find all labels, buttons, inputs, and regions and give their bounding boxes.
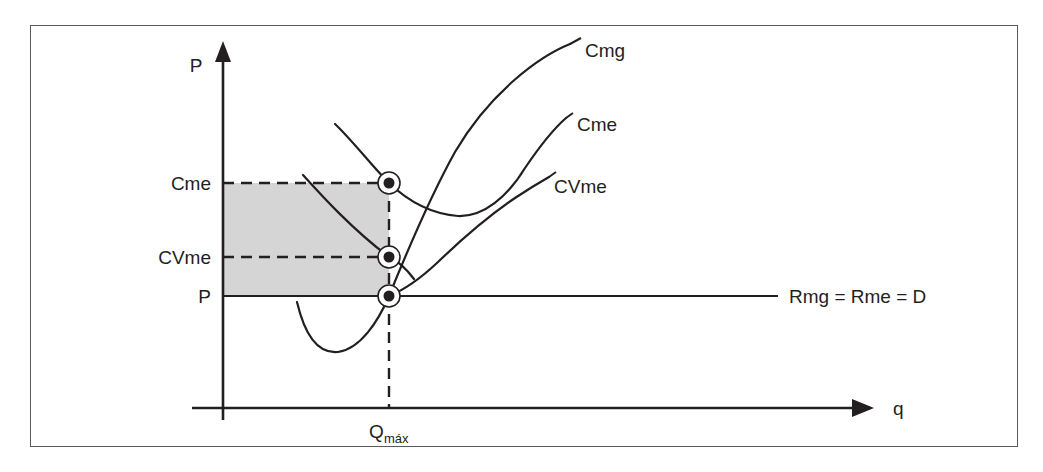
cme-curve-right [389, 118, 566, 216]
cme-curve-upper-stub [335, 124, 388, 182]
cme-leader-line [566, 113, 573, 118]
price-level-label-cvme: CVme [158, 247, 211, 268]
curve-label-cmg: Cmg [585, 40, 625, 61]
curve-label-cme: Cme [577, 114, 617, 135]
loss-area [222, 183, 389, 296]
screenshot-canvas: P q Cme CVme P Cmg Cme CVme Rmg = Rme = … [0, 0, 1043, 472]
y-axis-label: P [190, 55, 203, 76]
demand-label: Rmg = Rme = D [789, 286, 926, 307]
quantity-label: Q máx [369, 421, 409, 446]
quantity-label-subscript: máx [384, 431, 409, 446]
quantity-label-base: Q [369, 421, 384, 442]
point-p [378, 285, 400, 307]
economics-diagram: P q Cme CVme P Cmg Cme CVme Rmg = Rme = … [0, 0, 1043, 472]
point-cme [378, 172, 400, 194]
price-level-label-p: P [198, 286, 211, 307]
price-level-label-cme: Cme [171, 173, 211, 194]
curve-label-cvme: CVme [554, 176, 607, 197]
x-axis-label: q [893, 398, 904, 419]
cmg-leader-line [570, 38, 581, 44]
point-cvme [378, 246, 400, 268]
x-axis [192, 399, 874, 417]
